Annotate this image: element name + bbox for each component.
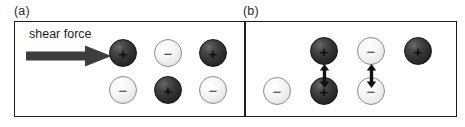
charge-sign: − xyxy=(155,40,181,66)
charge-sign: + xyxy=(155,77,181,103)
ion-negative: − xyxy=(357,37,385,65)
ion-positive: + xyxy=(404,37,432,65)
ion-negative: − xyxy=(154,39,182,67)
charge-sign: + xyxy=(311,38,337,64)
figure-root: (a) (b) shear force + − + xyxy=(0,0,465,127)
panel-caption-a: (a) xyxy=(14,4,30,18)
charge-sign: + xyxy=(110,40,136,66)
ion-positive: + xyxy=(199,39,227,67)
repulsion-arrow-icon xyxy=(319,64,330,88)
charge-sign: − xyxy=(200,77,226,103)
shear-force-label: shear force xyxy=(29,27,92,41)
repulsion-arrow-icon xyxy=(366,64,377,88)
ion-negative: − xyxy=(263,77,291,105)
charge-sign: − xyxy=(358,38,384,64)
charge-sign: − xyxy=(264,78,290,104)
ion-positive: + xyxy=(109,39,137,67)
panel-b: + − + − + − xyxy=(246,22,458,116)
ion-positive: + xyxy=(310,37,338,65)
charge-sign: + xyxy=(405,38,431,64)
charge-sign: − xyxy=(110,77,136,103)
panel-a: shear force + − + − + xyxy=(15,22,244,116)
ion-negative: − xyxy=(109,76,137,104)
figure-frame: shear force + − + − + xyxy=(14,21,457,117)
panel-caption-b: (b) xyxy=(243,4,259,18)
ion-negative: − xyxy=(199,76,227,104)
charge-sign: + xyxy=(200,40,226,66)
shear-force-arrow-icon xyxy=(26,45,112,67)
ion-positive: + xyxy=(154,76,182,104)
